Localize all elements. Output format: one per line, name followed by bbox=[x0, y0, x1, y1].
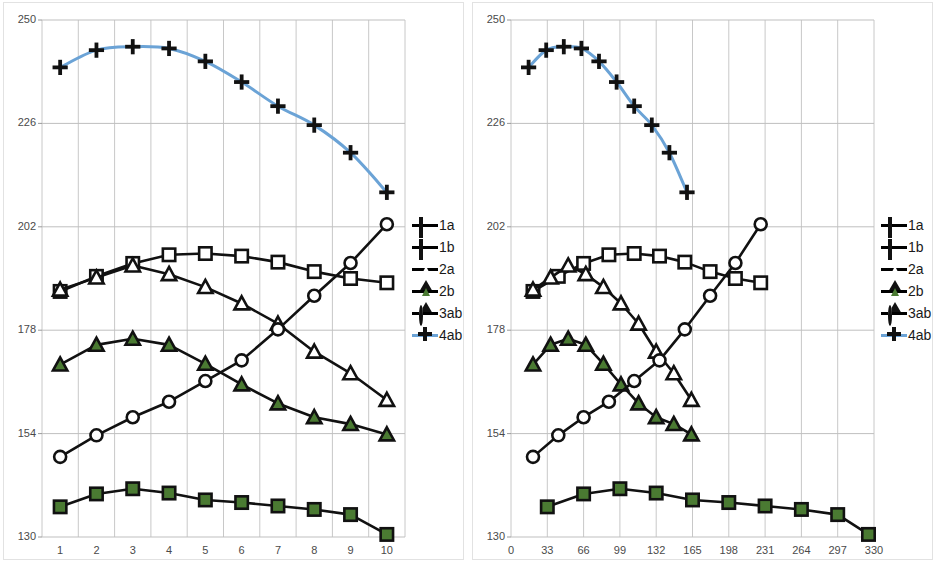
marker-open-square bbox=[888, 217, 892, 238]
y-axis-tick-130: 130 bbox=[473, 530, 505, 542]
y-axis-tick-226: 226 bbox=[4, 116, 36, 128]
legend-item-1b[interactable]: 1b bbox=[881, 236, 931, 258]
y-axis-tick-250: 250 bbox=[473, 13, 505, 25]
legend-label-1b: 1b bbox=[439, 240, 455, 254]
legend-key-3ab bbox=[412, 304, 438, 322]
legend-key-line bbox=[881, 246, 907, 249]
legend-key-line bbox=[881, 312, 907, 315]
legend-key-2b bbox=[881, 282, 907, 300]
legend-key-line bbox=[881, 224, 907, 227]
legend-key-marker bbox=[888, 241, 892, 259]
legend-item-4ab[interactable]: 4ab bbox=[881, 324, 931, 346]
legend-item-4ab[interactable]: 4ab bbox=[412, 324, 462, 346]
legend-item-1a[interactable]: 1a bbox=[412, 214, 462, 236]
x-axis-tick-2: 2 bbox=[80, 544, 112, 556]
legend-label-1a: 1a bbox=[908, 218, 924, 232]
legend-item-3ab[interactable]: 3ab bbox=[412, 302, 462, 324]
legend-label-1b: 1b bbox=[908, 240, 924, 254]
chart-panel-right: 1a1b2a2b3ab4ab 1301541782022262500336699… bbox=[469, 0, 938, 565]
x-axis-tick-7: 7 bbox=[262, 544, 294, 556]
legend-label-3ab: 3ab bbox=[439, 306, 462, 320]
x-axis-tick-5: 5 bbox=[189, 544, 221, 556]
plot-area-left bbox=[0, 0, 469, 565]
legend-item-2b[interactable]: 2b bbox=[881, 280, 931, 302]
x-axis-tick-33: 33 bbox=[531, 544, 563, 556]
x-axis-tick-9: 9 bbox=[335, 544, 367, 556]
legend-key-marker bbox=[888, 307, 892, 325]
legend-key-1a bbox=[881, 216, 907, 234]
legend-key-marker bbox=[888, 285, 902, 303]
legend-item-2a[interactable]: 2a bbox=[881, 258, 931, 280]
x-axis-tick-6: 6 bbox=[226, 544, 258, 556]
x-axis-tick-3: 3 bbox=[117, 544, 149, 556]
legend-key-2b bbox=[412, 282, 438, 300]
y-axis-tick-202: 202 bbox=[4, 220, 36, 232]
legend-key-4ab bbox=[881, 326, 907, 344]
legend-key-4ab bbox=[412, 326, 438, 344]
legend-label-3ab: 3ab bbox=[908, 306, 931, 320]
legend-key-marker bbox=[419, 241, 423, 259]
figure-root: 1a1b2a2b3ab4ab 1301541782022262501234567… bbox=[0, 0, 938, 565]
legend-key-line bbox=[412, 224, 438, 227]
axis-ticks bbox=[38, 20, 42, 537]
legend-label-4ab: 4ab bbox=[439, 328, 462, 342]
x-axis-tick-132: 132 bbox=[640, 544, 672, 556]
marker-open-square bbox=[419, 217, 423, 238]
x-axis-tick-297: 297 bbox=[822, 544, 854, 556]
y-axis-tick-130: 130 bbox=[4, 530, 36, 542]
legend-key-marker bbox=[419, 307, 423, 325]
x-axis-tick-0: 0 bbox=[495, 544, 527, 556]
x-axis-tick-99: 99 bbox=[604, 544, 636, 556]
marker-open-circle bbox=[888, 305, 892, 326]
legend-key-marker bbox=[419, 263, 433, 281]
legend-item-1a[interactable]: 1a bbox=[881, 214, 931, 236]
x-axis-tick-165: 165 bbox=[677, 544, 709, 556]
legend-key-line bbox=[412, 246, 438, 249]
y-axis-tick-154: 154 bbox=[4, 427, 36, 439]
legend-label-2a: 2a bbox=[439, 262, 455, 276]
legend-key-marker bbox=[888, 263, 902, 281]
x-axis-tick-4: 4 bbox=[153, 544, 185, 556]
legend-item-3ab[interactable]: 3ab bbox=[881, 302, 931, 324]
chart-panel-left: 1a1b2a2b3ab4ab 1301541782022262501234567… bbox=[0, 0, 469, 565]
marker-filled-square bbox=[419, 239, 423, 260]
legend-key-3ab bbox=[881, 304, 907, 322]
x-axis-tick-330: 330 bbox=[858, 544, 890, 556]
legend-left: 1a1b2a2b3ab4ab bbox=[412, 214, 462, 346]
axis-ticks bbox=[507, 20, 511, 537]
legend-key-marker bbox=[419, 219, 423, 237]
legend-key-2a bbox=[412, 260, 438, 278]
y-axis-tick-154: 154 bbox=[473, 427, 505, 439]
x-axis-tick-198: 198 bbox=[713, 544, 745, 556]
legend-label-2b: 2b bbox=[908, 284, 924, 298]
legend-key-marker bbox=[888, 219, 892, 237]
y-axis-tick-202: 202 bbox=[473, 220, 505, 232]
y-axis-tick-250: 250 bbox=[4, 13, 36, 25]
x-axis-tick-231: 231 bbox=[749, 544, 781, 556]
y-axis-tick-226: 226 bbox=[473, 116, 505, 128]
legend-key-1b bbox=[881, 238, 907, 256]
legend-key-1b bbox=[412, 238, 438, 256]
legend-key-1a bbox=[412, 216, 438, 234]
legend-item-2a[interactable]: 2a bbox=[412, 258, 462, 280]
x-axis-tick-10: 10 bbox=[371, 544, 403, 556]
x-axis-tick-264: 264 bbox=[785, 544, 817, 556]
legend-right: 1a1b2a2b3ab4ab bbox=[881, 214, 931, 346]
y-axis-tick-178: 178 bbox=[4, 323, 36, 335]
x-axis-tick-1: 1 bbox=[44, 544, 76, 556]
legend-label-2a: 2a bbox=[908, 262, 924, 276]
marker-open-circle bbox=[419, 305, 423, 326]
legend-label-4ab: 4ab bbox=[908, 328, 931, 342]
x-axis-tick-8: 8 bbox=[298, 544, 330, 556]
legend-label-1a: 1a bbox=[439, 218, 455, 232]
legend-label-2b: 2b bbox=[439, 284, 455, 298]
legend-item-1b[interactable]: 1b bbox=[412, 236, 462, 258]
legend-key-2a bbox=[881, 260, 907, 278]
x-axis-tick-66: 66 bbox=[568, 544, 600, 556]
y-axis-tick-178: 178 bbox=[473, 323, 505, 335]
legend-item-2b[interactable]: 2b bbox=[412, 280, 462, 302]
legend-key-marker bbox=[419, 285, 433, 303]
marker-filled-square bbox=[888, 239, 892, 260]
legend-key-line bbox=[412, 312, 438, 315]
plot-area-right bbox=[469, 0, 938, 565]
